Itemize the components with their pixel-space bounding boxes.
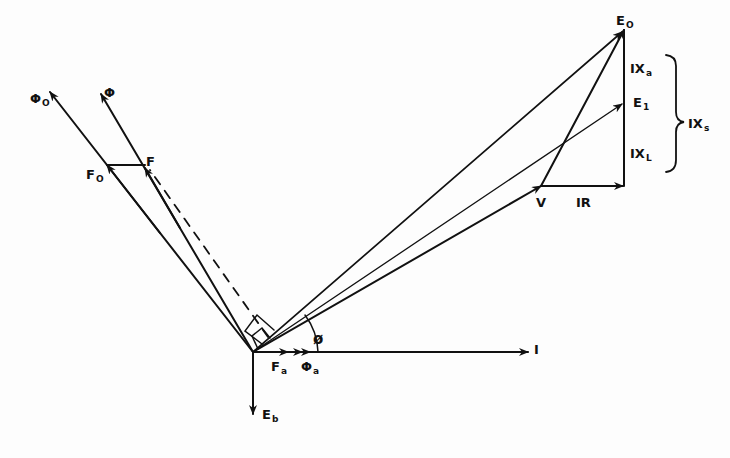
label-e0: EO bbox=[616, 14, 634, 30]
label-fa: Fa bbox=[271, 360, 287, 376]
label-phi: Φ bbox=[104, 86, 115, 99]
emf-vector-e0 bbox=[253, 32, 622, 352]
label-phia: Φa bbox=[301, 360, 319, 376]
label-ir: IR bbox=[576, 196, 591, 209]
mmf-vector-f0 bbox=[107, 165, 160, 233]
label-f: F bbox=[146, 155, 155, 168]
label-v: V bbox=[536, 196, 546, 209]
emf-vector-e1 bbox=[253, 104, 622, 352]
label-eb: Eb bbox=[262, 408, 278, 424]
phasor-diagram-svg bbox=[0, 0, 730, 458]
label-ixa: IXa bbox=[630, 62, 652, 78]
label-ixl: IXL bbox=[630, 147, 652, 163]
v-to-e0-line bbox=[541, 30, 624, 186]
label-i: I bbox=[534, 343, 539, 356]
label-ixs: IXs bbox=[688, 117, 709, 133]
label-e1: E1 bbox=[633, 96, 649, 112]
voltage-vector-v bbox=[253, 186, 541, 352]
label-f0: FO bbox=[86, 168, 104, 184]
ixs-brace bbox=[666, 55, 684, 172]
label-phi0: ΦO bbox=[30, 92, 50, 108]
phasor-diagram: ΦO Φ FO F EO E1 IXa IXL IXs V IR I ø Fa … bbox=[0, 0, 730, 458]
label-phase-angle: ø bbox=[313, 332, 323, 347]
dashed-construction-line bbox=[150, 170, 268, 337]
